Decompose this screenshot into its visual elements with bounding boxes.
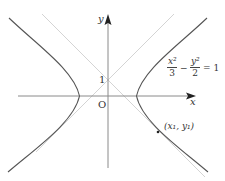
numerator-y: y²	[190, 57, 200, 66]
numerator-x: x²	[167, 57, 177, 66]
fraction-x: x² 3	[167, 57, 177, 78]
equation-rhs: = 1	[203, 64, 219, 73]
y-tick-label: 1	[99, 75, 105, 85]
origin-label: O	[98, 100, 106, 110]
fraction-y: y² 2	[190, 57, 200, 78]
hyperbola-diagram: y x O 1 x² 3 − y² 2 = 1 (x₁, y₁)	[0, 0, 225, 181]
x-axis-label: x	[190, 97, 196, 107]
denominator-3: 3	[167, 69, 177, 78]
y-axis-label: y	[98, 14, 104, 24]
minus-sign: −	[180, 64, 188, 73]
point-marker	[157, 131, 160, 134]
denominator-2: 2	[190, 69, 200, 78]
point-label: (x₁, y₁)	[164, 122, 194, 131]
equation-label: x² 3 − y² 2 = 1	[167, 57, 225, 85]
plot-canvas	[0, 0, 225, 181]
